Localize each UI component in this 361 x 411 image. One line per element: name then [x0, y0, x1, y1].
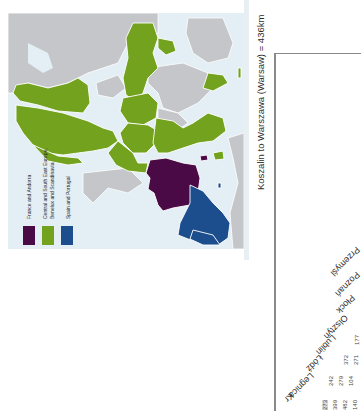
distance-cell: 140 [352, 400, 358, 410]
legend-label-central-se-europe-line1: Central and South East Europe, [42, 148, 48, 219]
distance-cell: 104 [348, 376, 354, 386]
legend-label-central-se-europe-line2: Benelux and Scandinavia [49, 163, 55, 219]
distance-cell: 372 [343, 355, 349, 365]
legend-swatch-france-andorra [23, 226, 35, 245]
table-border-top [275, 53, 361, 54]
distance-cell: 177 [354, 335, 360, 345]
europe-map: France and Andorra Central and South Eas… [8, 13, 244, 249]
distance-cell: 271 [353, 355, 359, 365]
distance-cell: 399 [332, 400, 338, 410]
legend-label-france-andorra: France and Andorra [26, 175, 32, 219]
page-edge [244, 0, 249, 260]
table-border-left [274, 53, 276, 411]
distance-cell: 279 [338, 376, 344, 386]
distance-cell-highlighted: 273 [322, 400, 328, 410]
legend-swatch-central-se-europe [42, 226, 54, 245]
distance-table-title: Koszalin to Warszawa (Warsaw) = 436km [255, 15, 266, 190]
legend-label-spain-portugal: Spain and Portugal [65, 176, 71, 219]
legend-swatch-spain-portugal [61, 226, 73, 245]
distance-cell: 482 [342, 400, 348, 410]
distance-cell: 242 [328, 376, 334, 386]
